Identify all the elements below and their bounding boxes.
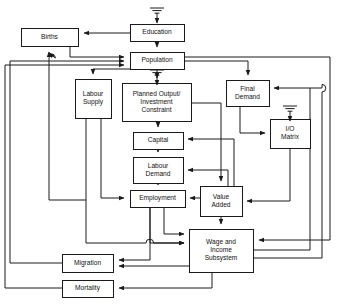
node-box-births [22, 29, 79, 47]
node-education[interactable]: Education [131, 25, 185, 42]
node-births[interactable]: Births [22, 29, 79, 47]
node-value_added[interactable]: ValueAdded [201, 187, 243, 217]
node-wage_income[interactable]: Wage andIncomeSubsystem [190, 230, 254, 273]
hop-right-rail-over-crossline [322, 84, 326, 92]
node-box-population [131, 53, 185, 70]
edge-employment-to-migration [119, 207, 150, 260]
ground-education-icon [150, 8, 164, 23]
edge-wage-income-to-final-demand [253, 84, 322, 258]
node-labour_supply[interactable]: LabourSupply [76, 80, 112, 119]
flow-diagram-canvas: EducationBirthsPopulationLabourSupplyPla… [0, 0, 338, 306]
edge-final-demand-to-io-matrix [240, 106, 265, 133]
node-io_matrix[interactable]: I/OMatrix [271, 120, 311, 149]
node-labour_demand[interactable]: LabourDemand [134, 158, 184, 184]
node-population[interactable]: Population [131, 53, 185, 70]
edge-population-to-labour-supply [93, 69, 136, 74]
node-box-value_added [201, 187, 243, 217]
node-planned_output[interactable]: Planned Output/InvestmentConstraint [123, 84, 192, 122]
edge-population-to-final-demand [184, 61, 248, 75]
node-box-final_demand [227, 81, 270, 107]
node-box-labour_supply [76, 80, 112, 119]
ground-io-matrix-icon [283, 106, 297, 121]
edge-births-to-population [70, 46, 124, 57]
node-final_demand[interactable]: FinalDemand [227, 81, 270, 107]
edge-employment-to-wage-income [164, 207, 184, 234]
node-box-wage_income [190, 230, 254, 273]
node-box-education [131, 25, 185, 42]
flow-diagram-svg: EducationBirthsPopulationLabourSupplyPla… [0, 0, 338, 306]
edge-wage-income-to-mortality [119, 272, 212, 288]
node-box-io_matrix [271, 120, 311, 149]
node-box-capital [134, 133, 184, 150]
edge-wage-income-upper-return [253, 88, 310, 250]
edge-labour-supply-to-births [49, 53, 86, 200]
edge-labour-supply-to-employment [101, 118, 124, 198]
ground-planned-output-icon [150, 70, 164, 85]
edge-value-added-to-labour-demand [188, 170, 228, 186]
edge-employment-to-wage-income-lower [150, 207, 184, 243]
node-box-migration [63, 255, 114, 273]
node-migration[interactable]: Migration [63, 255, 114, 273]
node-box-labour_demand [134, 158, 184, 184]
node-mortality[interactable]: Mortality [63, 281, 114, 298]
edge-planned-output-to-value-added [191, 103, 221, 181]
node-box-employment [131, 191, 186, 208]
edge-io-matrix-to-value-added [247, 148, 290, 201]
node-capital[interactable]: Capital [134, 133, 184, 150]
edge-value-added-to-capital [188, 139, 234, 186]
node-employment[interactable]: Employment [131, 191, 186, 208]
node-box-mortality [63, 281, 114, 298]
node-box-planned_output [123, 84, 192, 122]
